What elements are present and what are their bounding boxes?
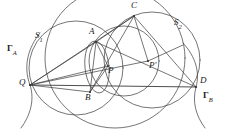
geometry-canvas <box>0 0 229 129</box>
point-dot-a <box>95 41 97 43</box>
arc-gamma-b <box>183 43 205 128</box>
label-point-d: D <box>200 76 207 85</box>
label-s1: S1 <box>35 31 43 42</box>
label-point-q: Q <box>19 78 26 87</box>
segment-c-pprime <box>134 16 148 61</box>
label-s2: S2 <box>174 18 182 29</box>
segment-q-d <box>30 85 196 87</box>
label-point-p: P <box>108 66 114 75</box>
segment-c-b <box>90 16 134 92</box>
label-point-b: B <box>85 93 91 102</box>
point-dot-c <box>133 15 135 17</box>
label-point-a: A <box>89 27 95 36</box>
point-dot-q <box>29 84 31 86</box>
circle-q-b-d <box>45 0 185 128</box>
segment-pprime-d <box>148 45 183 61</box>
label-point-p-prime: P′ <box>149 61 156 70</box>
geometry-figure: ΓA ΓB S1 S2 A B C D Q P P′ <box>0 0 229 129</box>
label-gamma-a: ΓA <box>7 44 17 55</box>
label-point-c: C <box>131 1 137 10</box>
point-dot-d <box>195 86 197 88</box>
label-gamma-b: ΓB <box>203 91 213 102</box>
